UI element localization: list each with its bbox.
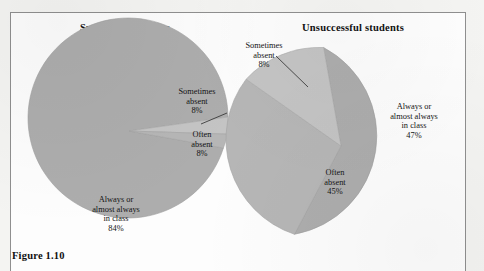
label-line-2: absent [218,51,310,61]
label-line-2: absent [151,97,243,107]
label-value: 45% [304,187,366,197]
label-line-2: absent [304,178,366,188]
label-line-1: Often [172,130,232,140]
label-line-2: absent [172,140,232,150]
label-successful-always-in-class: Always or almost always in class 84% [61,195,171,233]
page-background: Successful students Unsuccessful student… [0,0,484,271]
label-successful-sometimes-absent: Sometimes absent 8% [151,87,243,116]
pie-slice-successful-always [28,18,228,218]
label-unsuccessful-always-in-class: Always or almost always in class 47% [366,102,462,140]
label-line-1: Always or [61,195,171,205]
label-value: 8% [151,106,243,116]
label-unsuccessful-often-absent: Often absent 45% [304,168,366,197]
label-line-1: Sometimes [151,87,243,97]
label-unsuccessful-sometimes-absent: Sometimes absent 8% [218,41,310,70]
label-line-2: almost always [366,112,462,122]
label-value: 47% [366,131,462,141]
figure-panel: Successful students Unsuccessful student… [10,12,466,271]
label-value: 8% [172,149,232,159]
label-line-3: in class [366,121,462,131]
label-line-2: almost always [61,205,171,215]
label-line-1: Often [304,168,366,178]
label-successful-often-absent: Often absent 8% [172,130,232,159]
label-value: 8% [218,60,310,70]
label-value: 84% [61,224,171,234]
figure-caption: Figure 1.10 [12,250,65,261]
label-line-1: Always or [366,102,462,112]
label-line-1: Sometimes [218,41,310,51]
label-line-3: in class [61,214,171,224]
